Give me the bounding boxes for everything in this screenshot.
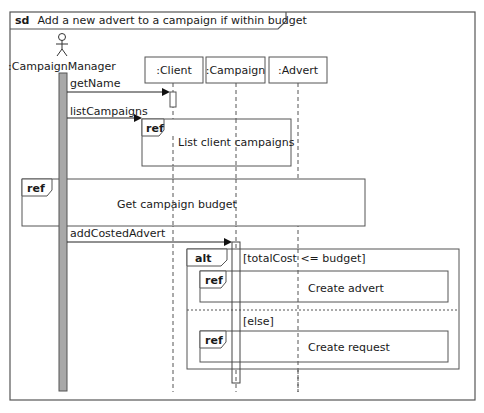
actor-activation-bar — [59, 73, 67, 391]
lifeline-advert-label: :Advert — [278, 64, 319, 77]
arrowhead-icon — [224, 238, 232, 246]
alt-guard-2: [else] — [243, 315, 274, 328]
ref-keyword: ref — [205, 274, 223, 287]
ref-create-advert-text: Create advert — [308, 282, 385, 295]
ref-keyword: ref — [146, 122, 164, 135]
lifeline-campaign-label: :Campaign — [206, 64, 266, 77]
message-getName-label: getName — [70, 77, 121, 90]
ref-create-request-text: Create request — [308, 341, 391, 354]
alt-guard-1: [totalCost <= budget] — [243, 252, 366, 265]
frame-keyword: sd — [15, 14, 29, 27]
ref-get-campaign-budget-text: Get campaign budget — [117, 198, 238, 211]
ref-keyword: ref — [205, 334, 223, 347]
actor-icon — [56, 34, 68, 57]
lifeline-client-label: :Client — [156, 64, 192, 77]
client-activation — [170, 92, 176, 107]
frame-title-text: Add a new advert to a campaign if within… — [37, 14, 307, 27]
arrowhead-icon — [162, 88, 170, 96]
message-listCampaigns-label: listCampaigns — [70, 105, 148, 118]
actor-label: :CampaignManager — [8, 60, 116, 73]
sequence-diagram: sd Add a new advert to a campaign if wit… — [0, 0, 484, 413]
alt-keyword: alt — [195, 252, 211, 265]
message-addCostedAdvert-label: addCostedAdvert — [70, 227, 166, 240]
ref-keyword: ref — [27, 182, 45, 195]
